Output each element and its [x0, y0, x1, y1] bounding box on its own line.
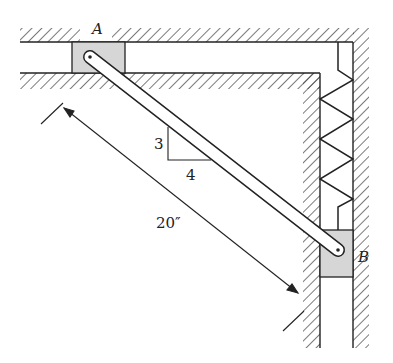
spring	[320, 42, 353, 230]
point-b-label: B	[357, 248, 369, 266]
point-a-label: A	[90, 20, 103, 38]
mechanism-diagram: 3 4 20″ A B	[0, 0, 393, 363]
pin-b	[336, 248, 340, 252]
length-label: 20″	[156, 214, 181, 232]
pin-a	[88, 55, 92, 59]
slope-run-label: 4	[186, 166, 196, 184]
slope-rise-label: 3	[154, 135, 164, 153]
